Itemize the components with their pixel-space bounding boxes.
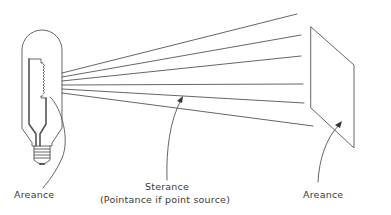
label-sterance: Sterance xyxy=(145,181,189,192)
light-bulb-icon xyxy=(22,30,62,164)
arrowhead-sterance xyxy=(177,96,183,103)
ray-bundle xyxy=(62,14,313,126)
bulb-envelope xyxy=(22,30,62,146)
label-source-areance: Areance xyxy=(14,189,54,200)
leader-sterance xyxy=(167,100,181,180)
diagram-canvas: Areance Sterance (Pointance if point sou… xyxy=(0,0,391,215)
leader-target-areance xyxy=(318,125,339,182)
filament-support-left xyxy=(29,59,36,146)
label-pointance-note: (Pointance if point source) xyxy=(100,194,230,205)
label-target-areance: Areance xyxy=(303,189,343,200)
receiving-surface xyxy=(311,27,354,148)
filament-support-top xyxy=(29,59,43,63)
arrowhead-target-areance xyxy=(335,121,342,128)
filament-support-right xyxy=(40,98,46,146)
filament-coil xyxy=(43,64,45,94)
